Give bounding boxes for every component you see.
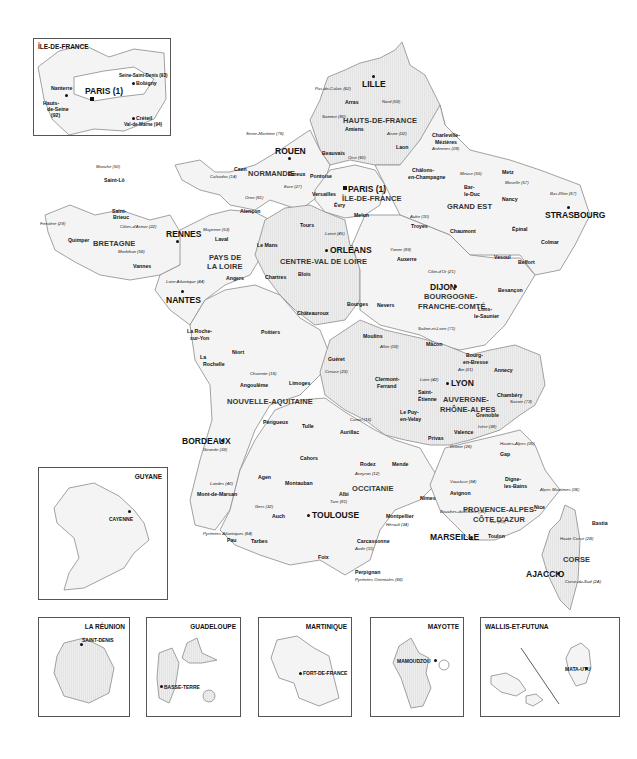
prefecture-label: Mende [392, 462, 408, 467]
region-label-bretagne: BRETAGNE [93, 240, 135, 248]
region-label-auvergne-rhone-alpes: AUVERGNE- [443, 396, 489, 404]
capital-marker [90, 97, 94, 101]
dept-label: Vaucluse (84) [450, 480, 476, 484]
region-label-bourgogne-franche-comte-2: FRANCHE-COMTÉ [418, 303, 486, 311]
city-label: Créteil [136, 116, 152, 121]
prefecture-label: Évry [334, 203, 345, 208]
capital-label-dijon: DIJON [430, 283, 456, 292]
prefecture-label: Saint-Lô [104, 178, 125, 183]
dept-label: Manche (50) [96, 165, 120, 169]
inset-la-reunion: LA RÉUNION SAINT-DENIS [38, 617, 130, 717]
dept-label: Moselle (57) [505, 181, 529, 185]
prefecture-label: Laon [396, 145, 408, 150]
dept-label: Aisne (02) [387, 132, 407, 136]
prefecture-label: Limoges [289, 381, 310, 386]
prefecture-label: Bourges [347, 302, 368, 307]
guyane-shape [39, 468, 167, 599]
prefecture-label: Melun [354, 213, 369, 218]
martinique-shape [259, 618, 351, 716]
capital-dot-rennes [176, 240, 179, 243]
dept-label: Aude (11) [355, 547, 374, 551]
prefecture-label: Bastia [592, 521, 608, 526]
capital-label-orleans: ORLÉANS [330, 246, 372, 255]
prefecture-label: Nice [534, 505, 545, 510]
prefecture-label: La [200, 355, 206, 360]
dept-label: Val-de-Marne (94) [124, 123, 162, 128]
prefecture-label: Beauvais [322, 151, 345, 156]
city-label: MAMOUDZOU [397, 658, 431, 664]
capital-label-nantes: NANTES [166, 296, 201, 305]
city-dot [65, 94, 68, 97]
prefecture-label: Foix [318, 555, 329, 560]
capital-label-lyon: LYON [451, 379, 474, 388]
prefecture-label: Lons- [478, 307, 492, 312]
prefecture-label: Tarbes [251, 539, 268, 544]
prefecture-label: Poitiers [261, 330, 280, 335]
capital-dot-dijon [454, 285, 457, 288]
capital-dot-lyon [446, 382, 449, 385]
capital-dot-marseille [470, 536, 473, 539]
prefecture-label: Angers [226, 276, 244, 281]
reunion-shape [39, 618, 129, 716]
prefecture-label: Niort [232, 350, 244, 355]
city-label: Nanterre [51, 86, 72, 91]
dept-label: Hautes-Alpes (05) [500, 442, 535, 446]
dept-label: Nord (59) [382, 100, 400, 104]
prefecture-label: Blois [298, 272, 311, 277]
prefecture-label: Montpellier [386, 514, 414, 519]
dept-label: Finistère (29) [40, 222, 65, 226]
dept-label: Mayenne (53) [203, 228, 230, 232]
capital-dot-bordeaux [221, 439, 224, 442]
prefecture-label: Rochelle [203, 362, 225, 367]
dept-label: Calvados (14) [210, 175, 237, 179]
inset-guadeloupe: GUADELOUPE BASSE-TERRE [146, 617, 241, 717]
inset-wallis-et-futuna: WALLIS-ET-FUTUNA MATA-UTU [480, 617, 620, 717]
prefecture-label: Besançon [498, 288, 523, 293]
region-label-centre-val-de-loire: CENTRE-VAL DE LOIRE [280, 258, 367, 266]
dept-label: Ain (01) [458, 368, 473, 372]
dept-label: Saône-et-Loire (71) [418, 327, 455, 331]
prefecture-label: Le Puy- [400, 410, 419, 415]
prefecture-label: en-Bresse [463, 360, 488, 365]
dept-label: Savoie (73) [510, 400, 532, 404]
dept-label: Oise (60) [348, 156, 366, 160]
prefecture-label: Montauban [285, 481, 313, 486]
capital-dot-orleans [325, 249, 328, 252]
prefecture-label: Troyes [411, 224, 428, 229]
city-label: BASSE-TERRE [164, 684, 200, 690]
prefecture-label: Nîmes [420, 496, 436, 501]
region-label-grand-est: GRAND EST [447, 203, 492, 211]
dept-label: Aube (10) [410, 215, 429, 219]
prefecture-label: Rodez [360, 462, 376, 467]
prefecture-label: Chartres [265, 275, 286, 280]
dept-label: Aveyron (12) [355, 472, 380, 476]
dept-label: Loire (42) [420, 378, 438, 382]
capital-dot-ajaccio [557, 572, 560, 575]
prefecture-label: Étienne [418, 397, 437, 402]
capital-dot-nantes [181, 290, 184, 293]
inset-title: ÎLE-DE-FRANCE [38, 43, 89, 50]
prefecture-label: Saint- [418, 390, 432, 395]
region-label-hauts-de-france: HAUTS-DE-FRANCE [343, 117, 417, 125]
prefecture-label: le-Duc [464, 192, 480, 197]
dept-label: Seine-Maritime (76) [246, 132, 284, 136]
city-label: Bobigny [136, 81, 157, 86]
inset-title: LA RÉUNION [85, 623, 125, 630]
prefecture-label: Châteauroux [297, 311, 329, 316]
prefecture-label: Annecy [494, 368, 513, 373]
prefecture-label: Périgueux [263, 420, 288, 425]
mayotte-shape [371, 618, 463, 716]
dept-label: Cantal (15) [350, 418, 371, 422]
paris-label: PARIS (1) [85, 87, 123, 96]
capital-marker-paris [343, 186, 347, 190]
dept-label: Gironde (33) [203, 448, 227, 452]
prefecture-label: Pontoise [310, 174, 332, 179]
city-label: CAYENNE [109, 516, 133, 522]
dept-label: Landes (40) [210, 482, 233, 486]
region-label-pays-de-la-loire: PAYS DE [209, 254, 241, 262]
dept-label: Allier (03) [380, 345, 398, 349]
dept-label: Isère (38) [478, 425, 496, 429]
prefecture-label: en-Champagne [408, 175, 445, 180]
prefecture-label: Colmar [541, 240, 559, 245]
inset-ile-de-france: ÎLE-DE-FRANCE Seine-Saint-Denis (93) Bob… [33, 38, 171, 136]
